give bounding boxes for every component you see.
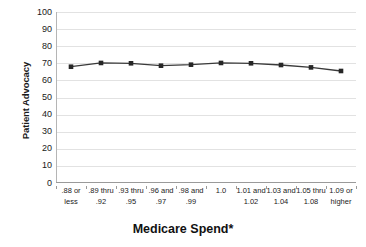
data-point-marker [129,61,134,66]
data-point-marker [99,61,104,66]
x-axis-tick-label: 1.09 orhigher [326,186,356,207]
y-axis-tick-label: 70 [26,59,52,68]
x-axis-tick-labels: .88 orless.89 thru.92.93 thru.95.96 and.… [56,186,356,216]
x-axis-tick-label: 1.01 and1.02 [236,186,266,207]
data-point-marker [339,69,344,74]
y-axis-tick-label: 60 [26,76,52,85]
x-axis-tick-label: .89 thru.92 [86,186,116,207]
x-axis-tick-label: 1.05 thru1.08 [296,186,326,207]
y-axis-tick-labels: 1009080706050403020100 [22,0,52,247]
x-axis-tick-label: .88 orless [56,186,86,207]
x-axis-tick-label: .96 and.97 [146,186,176,207]
series-patient-advocacy [56,12,356,183]
line-chart: Patient Advocacy 1009080706050403020100 … [0,0,366,247]
plot-area [56,12,356,183]
y-axis-tick-label: 30 [26,127,52,136]
x-axis-title: Medicare Spend* [0,222,366,236]
data-point-marker [219,61,224,66]
data-point-marker [159,63,164,68]
y-axis-tick-label: 90 [26,25,52,34]
data-point-marker [69,64,74,69]
y-axis-tick-label: 20 [26,144,52,153]
x-axis-tick-label: 1.0 [206,186,236,197]
y-axis-tick-label: 50 [26,93,52,102]
y-axis-tick-label: 0 [26,179,52,188]
y-axis-tick-label: 10 [26,161,52,170]
data-point-marker [249,61,254,66]
y-axis-tick-label: 80 [26,42,52,51]
data-point-marker [279,63,284,68]
data-point-marker [309,65,314,70]
x-axis-tick-label: 1.03 and1.04 [266,186,296,207]
data-point-marker [189,62,194,67]
x-axis-tick-label: .98 and.99 [176,186,206,207]
x-axis-tick-mark [356,186,357,189]
y-axis-tick-label: 40 [26,110,52,119]
y-axis-tick-label: 100 [26,8,52,17]
x-axis-tick-label: .93 thru.95 [116,186,146,207]
series-line [71,63,341,71]
